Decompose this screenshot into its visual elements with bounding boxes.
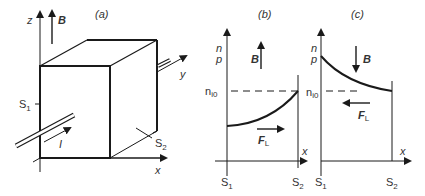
hall-effect-figure: z B (a) y I S1 [0,0,425,196]
back-contact-rod [158,60,170,66]
b-field-label: B [58,14,66,26]
s1-label: S1 [19,98,31,113]
c-s2-label: S2 [386,176,398,191]
cube-depth-edge [110,131,157,158]
c-lorentz-force-label: FL [358,109,370,123]
panel-c-title: (c) [351,8,364,20]
c-field-label: B [363,53,371,65]
b-s2-label: S2 [292,176,304,191]
z-axis-label: z [26,14,33,26]
panel-a: z B (a) y I S1 [16,8,187,176]
axis-origin-tick [33,158,40,162]
s2-label: S2 [155,137,167,152]
b-carrier-concentration-curve [227,91,298,126]
panel-b: (b) n p B ni0 FL x S1 S2 [205,8,308,191]
b-ylabel-p: p [215,53,222,65]
current-label: I [59,138,62,150]
b-field-label: B [251,53,259,65]
c-ni0-label: ni0 [306,86,319,100]
b-x-axis-label: x [301,145,308,157]
b-lorentz-force-label: FL [258,134,270,148]
semiconductor-cube [40,40,157,158]
panel-c: (c) n p B ni0 FL x S1 S2 [306,8,410,191]
b-ni0-label: ni0 [205,85,218,99]
c-s1-label: S1 [315,176,327,191]
b-s1-label: S1 [221,176,233,191]
c-x-axis-label: x [399,145,406,157]
x-axis-label: x [154,164,161,176]
panel-b-title: (b) [258,8,272,20]
panel-a-title: (a) [95,8,109,20]
s2-marker [136,128,152,138]
c-ylabel-p: p [310,53,317,65]
y-axis-label: y [179,68,187,80]
